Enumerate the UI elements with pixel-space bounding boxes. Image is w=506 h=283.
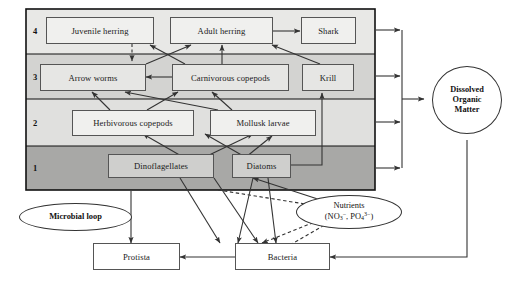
node-mollusk-larvae[interactable]: Mollusk larvae <box>210 110 316 136</box>
node-carnivorous-copepods[interactable]: Carnivorous copepods <box>172 64 289 91</box>
dom-line-3: Matter <box>450 105 484 115</box>
node-bacteria[interactable]: Bacteria <box>235 243 330 270</box>
node-label: Herbivorous copepods <box>73 111 193 135</box>
node-label: Mollusk larvae <box>211 111 315 135</box>
node-label: Shark <box>302 18 355 43</box>
ellipse-microbial-loop[interactable]: Microbial loop <box>19 203 132 231</box>
level-number-2: 2 <box>28 114 42 132</box>
node-label: Bacteria <box>236 244 329 269</box>
node-herbivorous-copepods[interactable]: Herbivorous copepods <box>72 110 194 136</box>
node-label: Protista <box>94 244 179 269</box>
microbial-loop-label: Microbial loop <box>49 213 102 222</box>
food-web-diagram: 4 3 2 1 Juvenile herring Adult herring S… <box>0 0 506 283</box>
node-label: Dinoflagellates <box>109 155 213 177</box>
node-label: Juvenile herring <box>47 18 153 43</box>
formula-prefix: (NO <box>325 212 340 221</box>
dom-line-1: Dissolved <box>450 85 484 95</box>
ellipse-nutrients[interactable]: Nutrients (NO3−, PO43−) <box>296 195 402 229</box>
nutrients-formula: (NO3−, PO43−) <box>325 211 373 222</box>
level-number-1: 1 <box>28 159 42 177</box>
node-diatoms[interactable]: Diatoms <box>232 154 291 178</box>
ellipse-dissolved-organic-matter[interactable]: Dissolved Organic Matter <box>432 66 502 134</box>
node-shark[interactable]: Shark <box>301 17 356 44</box>
node-dinoflagellates[interactable]: Dinoflagellates <box>108 154 214 178</box>
nutrients-label: Nutrients <box>325 202 373 211</box>
node-krill[interactable]: Krill <box>302 64 354 91</box>
node-label: Adult herring <box>171 18 272 43</box>
node-label: Arrow worms <box>41 65 145 90</box>
node-label: Diatoms <box>233 155 290 177</box>
level-number-4: 4 <box>28 22 42 40</box>
node-protista[interactable]: Protista <box>93 243 180 270</box>
formula-suffix: ) <box>370 212 373 221</box>
node-arrow-worms[interactable]: Arrow worms <box>40 64 146 91</box>
node-adult-herring[interactable]: Adult herring <box>170 17 273 44</box>
dom-line-2: Organic <box>450 95 484 105</box>
formula-mid: , PO <box>346 212 361 221</box>
node-label: Krill <box>303 65 353 90</box>
node-label: Carnivorous copepods <box>173 65 288 90</box>
node-juvenile-herring[interactable]: Juvenile herring <box>46 17 154 44</box>
